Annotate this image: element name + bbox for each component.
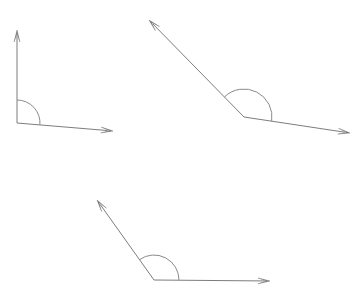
figure-background [0, 0, 364, 302]
angles-figure-canvas [0, 0, 364, 302]
